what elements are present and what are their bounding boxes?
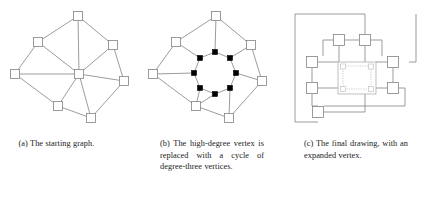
edge-into-expanded bbox=[324, 94, 365, 112]
cycle-vertex bbox=[234, 71, 239, 76]
edge bbox=[79, 45, 113, 74]
graph-node bbox=[192, 102, 201, 111]
cycle-vertex bbox=[198, 56, 203, 61]
graph-node bbox=[212, 12, 221, 21]
graph-node bbox=[54, 102, 63, 111]
graph-node bbox=[388, 57, 399, 68]
edge bbox=[251, 45, 262, 81]
edge bbox=[196, 106, 229, 118]
figure-a-edges bbox=[15, 16, 124, 118]
figure-a-svg bbox=[0, 0, 141, 136]
edge bbox=[312, 94, 318, 106]
edge-spoke bbox=[215, 16, 216, 52]
cycle-vertex bbox=[213, 92, 218, 97]
graph-node bbox=[11, 70, 20, 79]
graph-node bbox=[247, 41, 256, 50]
edge-spoke bbox=[153, 73, 194, 74]
edge bbox=[371, 40, 382, 56]
cycle-vertex bbox=[213, 50, 218, 55]
edge bbox=[176, 16, 216, 42]
graph-node bbox=[307, 57, 318, 68]
edge bbox=[113, 45, 124, 81]
figure-c-caption: (c) The final drawing, with an expanded … bbox=[304, 138, 408, 161]
graph-node bbox=[258, 77, 267, 86]
graph-node bbox=[313, 107, 324, 118]
edge bbox=[38, 16, 78, 42]
expanded-vertex-corner bbox=[341, 87, 346, 92]
edge bbox=[153, 74, 196, 106]
figure-c-svg bbox=[283, 0, 429, 136]
edge bbox=[38, 42, 79, 74]
graph-node bbox=[74, 12, 83, 21]
figure-panel-a: (a) The starting graph. bbox=[0, 0, 141, 150]
figure-b-cycle-nodes bbox=[192, 50, 239, 97]
graph-node bbox=[172, 38, 181, 47]
edge bbox=[78, 16, 113, 45]
graph-node bbox=[149, 70, 158, 79]
edge-outer-right bbox=[409, 14, 416, 62]
edge bbox=[15, 74, 58, 106]
expanded-vertex-corner bbox=[369, 87, 374, 92]
figure-a-caption: (a) The starting graph. bbox=[19, 138, 123, 150]
figure-c-drawing bbox=[283, 0, 429, 136]
edge bbox=[323, 40, 333, 56]
figure-b-drawing bbox=[141, 0, 283, 136]
edge bbox=[216, 16, 251, 45]
figure-b-outer-nodes bbox=[149, 12, 267, 123]
edge bbox=[79, 74, 124, 81]
figure-a-drawing bbox=[0, 0, 141, 136]
graph-node bbox=[87, 114, 96, 123]
graph-node-hub bbox=[75, 70, 84, 79]
figure-panel-b: (b) The high-degree vertex is replaced w… bbox=[141, 0, 283, 173]
graph-node bbox=[307, 83, 318, 94]
figure-triptych: (a) The starting graph. bbox=[0, 0, 429, 220]
expanded-vertex-corner bbox=[341, 64, 346, 69]
graph-node bbox=[120, 77, 129, 86]
cycle-vertex bbox=[228, 56, 233, 61]
edge bbox=[79, 74, 91, 118]
graph-node bbox=[34, 38, 43, 47]
graph-node bbox=[388, 83, 399, 94]
graph-node bbox=[109, 41, 118, 50]
expanded-vertex-corner bbox=[369, 64, 374, 69]
edge bbox=[229, 81, 262, 118]
graph-node bbox=[225, 114, 234, 123]
figure-panel-c: (c) The final drawing, with an expanded … bbox=[283, 0, 429, 161]
figure-b-edges bbox=[153, 16, 262, 118]
cycle-vertex bbox=[192, 71, 197, 76]
figure-b-svg bbox=[141, 0, 283, 136]
graph-node bbox=[334, 35, 345, 46]
edge bbox=[78, 16, 79, 74]
expanded-vertex bbox=[338, 62, 376, 94]
edge bbox=[58, 106, 91, 118]
figure-b-caption: (b) The high-degree vertex is replaced w… bbox=[160, 138, 264, 173]
edge bbox=[91, 81, 124, 118]
graph-node bbox=[360, 35, 371, 46]
cycle-vertex bbox=[228, 86, 233, 91]
cycle-vertex bbox=[198, 86, 203, 91]
